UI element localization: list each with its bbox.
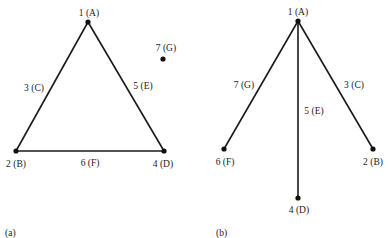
edge-label: 5 (E) [133, 81, 152, 92]
figure-a: 3 (C)5 (E)6 (F)1 (A)2 (B)4 (D)7 (G) [6, 8, 176, 170]
node-B [13, 148, 18, 153]
caption-a: (a) [5, 228, 16, 238]
edge-label: 5 (E) [304, 106, 323, 117]
node-G [160, 56, 165, 61]
node-A [85, 19, 90, 24]
caption-b: (b) [216, 228, 227, 238]
node-D [161, 148, 166, 153]
edge-label: 3 (C) [24, 83, 44, 94]
edge-label: 6 (F) [81, 158, 100, 169]
edge-label: 7 (G) [234, 80, 254, 91]
node-D [295, 195, 300, 200]
node-B [370, 146, 375, 151]
node-label: 2 (B) [6, 159, 26, 170]
node-A [295, 18, 300, 23]
node-label: 2 (B) [363, 157, 383, 168]
graph-diagram: 3 (C)5 (E)6 (F)1 (A)2 (B)4 (D)7 (G) 7 (G… [0, 0, 389, 238]
figure-b: 7 (G)5 (E)3 (C)1 (A)6 (F)4 (D)2 (B) [216, 7, 383, 216]
node-label: 4 (D) [289, 205, 309, 216]
node-label: 6 (F) [216, 157, 235, 168]
node-label: 1 (A) [288, 7, 308, 18]
node-F [221, 146, 226, 151]
edge-label: 3 (C) [344, 80, 364, 91]
node-label: 4 (D) [153, 159, 173, 170]
node-label: 7 (G) [156, 43, 176, 54]
node-label: 1 (A) [79, 8, 99, 19]
